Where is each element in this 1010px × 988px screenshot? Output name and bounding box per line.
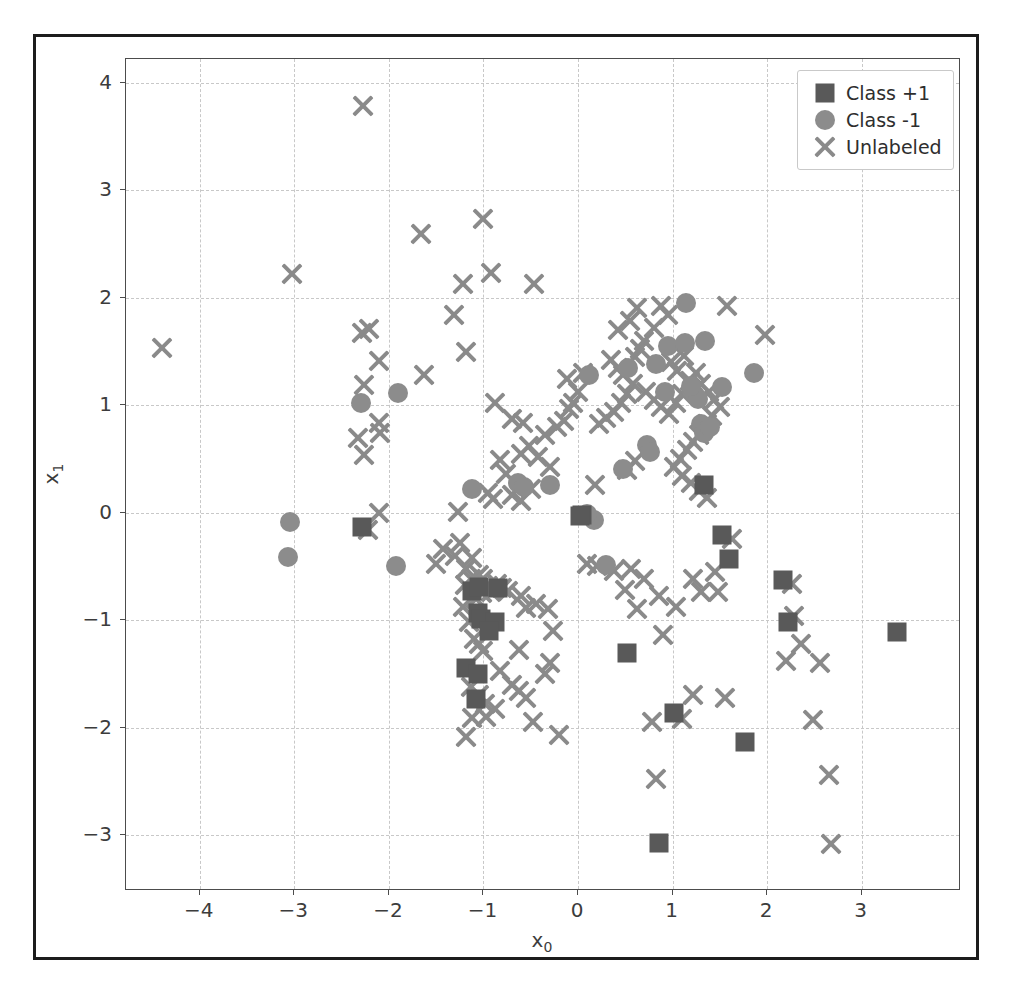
marker-square xyxy=(618,644,637,663)
x-tick-label: 3 xyxy=(854,898,867,922)
marker-x xyxy=(356,316,382,342)
marker-x xyxy=(540,618,566,644)
marker-x xyxy=(601,558,627,584)
marker-x xyxy=(719,526,745,552)
marker-x xyxy=(472,691,498,717)
marker-x xyxy=(458,566,484,592)
legend-entry[interactable]: Class +1 xyxy=(808,79,943,106)
marker-x xyxy=(351,442,377,468)
gridline-horizontal xyxy=(126,513,959,514)
y-tick-label: 0 xyxy=(99,500,112,524)
marker-x xyxy=(683,360,709,386)
marker-square xyxy=(485,613,504,632)
marker-x xyxy=(351,372,377,398)
marker-square xyxy=(570,506,589,525)
marker-x xyxy=(658,349,684,375)
marker-x xyxy=(694,485,720,511)
marker-circle xyxy=(540,475,560,495)
y-tick-label: −1 xyxy=(83,607,112,631)
marker-x xyxy=(622,344,648,370)
marker-x xyxy=(663,594,689,620)
x-tick-mark xyxy=(199,890,200,895)
y-tick-mark xyxy=(120,619,125,620)
legend-entry[interactable]: Unlabeled xyxy=(808,133,943,160)
marker-x xyxy=(475,480,501,506)
marker-circle xyxy=(815,110,835,130)
marker-x xyxy=(678,470,704,496)
marker-x xyxy=(554,366,580,392)
marker-x xyxy=(686,478,712,504)
y-tick-mark xyxy=(120,189,125,190)
marker-x xyxy=(493,461,519,487)
marker-x xyxy=(510,410,536,436)
y-tick-label: −2 xyxy=(83,715,112,739)
marker-x xyxy=(618,556,644,582)
x-tick-mark xyxy=(388,890,389,895)
marker-x xyxy=(641,387,667,413)
x-tick-label: −3 xyxy=(279,898,308,922)
marker-x xyxy=(663,390,689,416)
marker-x xyxy=(430,536,456,562)
marker-circle xyxy=(676,293,696,313)
gridline-vertical xyxy=(294,59,295,889)
marker-x xyxy=(445,499,471,525)
marker-circle xyxy=(744,363,764,383)
marker-x xyxy=(688,579,714,605)
marker-x xyxy=(532,661,558,687)
marker-x xyxy=(680,566,706,592)
marker-x xyxy=(812,134,838,160)
marker-circle xyxy=(646,354,666,374)
marker-x xyxy=(631,566,657,592)
x-tick-label: 1 xyxy=(665,898,678,922)
marker-square xyxy=(463,582,482,601)
y-tick-mark xyxy=(120,82,125,83)
marker-x xyxy=(773,648,799,674)
gridline-horizontal xyxy=(126,405,959,406)
marker-circle xyxy=(691,414,711,434)
marker-square xyxy=(572,505,591,524)
x-tick-label: 2 xyxy=(760,898,773,922)
marker-x xyxy=(605,317,631,343)
marker-x xyxy=(475,573,501,599)
marker-x xyxy=(408,221,434,247)
legend-entry[interactable]: Class -1 xyxy=(808,106,943,133)
marker-x xyxy=(680,429,706,455)
marker-x xyxy=(442,543,468,569)
x-axis-label: x0 xyxy=(532,928,553,955)
marker-x xyxy=(624,295,650,321)
marker-x xyxy=(459,545,485,571)
marker-x xyxy=(633,379,659,405)
plot-area xyxy=(125,58,960,890)
marker-x xyxy=(807,650,833,676)
marker-x xyxy=(441,302,467,328)
marker-x xyxy=(508,583,534,609)
marker-square xyxy=(720,549,739,568)
marker-circle xyxy=(695,331,715,351)
marker-x xyxy=(345,425,371,451)
marker-x xyxy=(680,682,706,708)
y-tick-label: 1 xyxy=(99,392,112,416)
marker-x xyxy=(686,422,712,448)
marker-x xyxy=(612,577,638,603)
x-tick-mark xyxy=(577,890,578,895)
marker-x xyxy=(525,444,551,470)
marker-x xyxy=(667,446,693,472)
marker-x xyxy=(532,422,558,448)
gridline-vertical xyxy=(200,59,201,889)
marker-x xyxy=(593,405,619,431)
marker-x xyxy=(482,390,508,416)
marker-x xyxy=(499,406,525,432)
marker-x xyxy=(622,448,648,474)
marker-x xyxy=(582,472,608,498)
marker-x xyxy=(639,709,665,735)
marker-x xyxy=(508,488,534,514)
marker-x xyxy=(473,704,499,730)
y-tick-mark xyxy=(120,512,125,513)
gridline-vertical xyxy=(862,59,863,889)
x-tick-label: −4 xyxy=(184,898,213,922)
marker-x xyxy=(699,403,725,429)
marker-square xyxy=(488,578,507,597)
marker-x xyxy=(484,571,510,597)
marker-square xyxy=(774,571,793,590)
marker-x xyxy=(705,579,731,605)
